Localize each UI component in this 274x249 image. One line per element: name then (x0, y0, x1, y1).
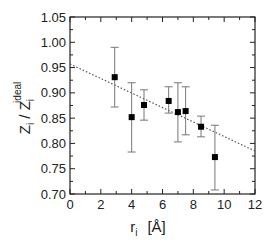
data-point (197, 116, 205, 137)
data-point (174, 83, 182, 142)
plot-area (70, 17, 255, 194)
x-tick-label: 6 (159, 197, 166, 212)
chart: 024681012 0.700.750.800.850.900.951.001.… (0, 0, 274, 249)
data-point (128, 83, 136, 152)
plot-frame (70, 17, 255, 194)
data-point (140, 90, 148, 120)
x-tick-label: 0 (66, 197, 73, 212)
y-tick-label: 0.95 (41, 60, 66, 75)
data-point (211, 125, 219, 190)
y-tick-label: 1.00 (41, 35, 66, 50)
data-points (111, 47, 219, 190)
y-tick-label: 0.70 (41, 187, 66, 202)
y-tick-label: 0.85 (41, 111, 66, 126)
x-tick-label: 10 (217, 197, 231, 212)
x-axis: 024681012 (66, 17, 262, 212)
x-tick-label: 2 (97, 197, 104, 212)
y-axis-title: Zi / Ziideal (12, 82, 36, 134)
x-tick-label: 4 (128, 197, 135, 212)
fit-line (70, 64, 255, 151)
y-tick-label: 0.80 (41, 136, 66, 151)
y-tick-label: 1.05 (41, 10, 66, 25)
data-point (111, 47, 119, 107)
y-tick-label: 0.90 (41, 85, 66, 100)
x-tick-label: 8 (190, 197, 197, 212)
y-tick-label: 0.75 (41, 161, 66, 176)
x-tick-label: 12 (248, 197, 262, 212)
y-axis: 0.700.750.800.850.900.951.001.05 (41, 10, 255, 202)
data-point (182, 87, 190, 135)
x-axis-title: ri[Å] (130, 218, 166, 238)
